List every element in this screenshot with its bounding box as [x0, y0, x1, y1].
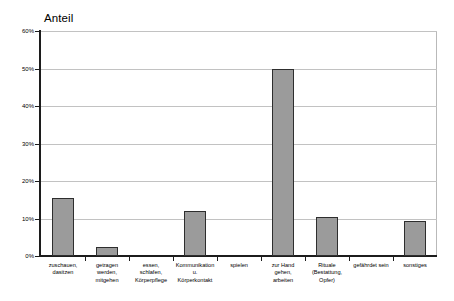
y-axis-tick-mark	[35, 256, 40, 257]
x-axis-category-label: sonstiges	[390, 262, 440, 269]
x-axis-category-label: zuschauen, dasitzen	[38, 262, 88, 277]
y-axis-tick-mark	[35, 106, 40, 107]
gridline	[41, 219, 437, 220]
x-axis-tick-mark	[173, 257, 174, 261]
gridline	[41, 106, 437, 107]
x-axis-tick-mark	[217, 257, 218, 261]
gridline	[41, 31, 437, 32]
x-axis-tick-mark	[393, 257, 394, 261]
y-axis-tick-label: 60%	[4, 28, 34, 34]
bar	[404, 221, 426, 256]
y-axis-tick-mark	[35, 144, 40, 145]
chart-title: Anteil	[44, 12, 73, 24]
x-axis-tick-mark	[349, 257, 350, 261]
x-axis-category-label: spielen	[214, 262, 264, 269]
bar-chart: Anteil 0%10%20%30%40%50%60% zuschauen, d…	[0, 0, 454, 301]
bar	[184, 211, 206, 256]
x-axis-tick-mark	[85, 257, 86, 261]
y-axis-tick-label: 40%	[4, 103, 34, 109]
y-axis-tick-mark	[35, 31, 40, 32]
gridline	[41, 181, 437, 182]
y-axis-tick-label: 50%	[4, 66, 34, 72]
x-axis-category-label: Kommunikation u. Körperkontakt	[170, 262, 220, 284]
x-axis-category-label: Rituale (Bestattung, Opfer)	[302, 262, 352, 284]
bar	[52, 198, 74, 257]
x-axis-category-label: zur Hand gehen, arbeiten	[258, 262, 308, 284]
x-axis-tick-mark	[261, 257, 262, 261]
x-axis-tick-mark	[129, 257, 130, 261]
y-axis-tick-label: 20%	[4, 178, 34, 184]
bar	[272, 69, 294, 257]
y-axis-tick-mark	[35, 181, 40, 182]
y-axis-tick-mark	[35, 69, 40, 70]
y-axis-tick-label: 10%	[4, 216, 34, 222]
y-axis-tick-label: 0%	[4, 253, 34, 259]
x-axis-category-label: getragen werden, mitgehen	[82, 262, 132, 284]
x-axis-category-label: essen, schlafen, Körperpflege	[126, 262, 176, 284]
y-axis-tick-mark	[35, 219, 40, 220]
bar	[316, 217, 338, 256]
bar	[96, 247, 118, 256]
gridline	[41, 69, 437, 70]
x-axis-category-label: gefährdet sein	[346, 262, 396, 269]
x-axis-tick-mark	[305, 257, 306, 261]
y-axis-tick-label: 30%	[4, 141, 34, 147]
gridline	[41, 144, 437, 145]
